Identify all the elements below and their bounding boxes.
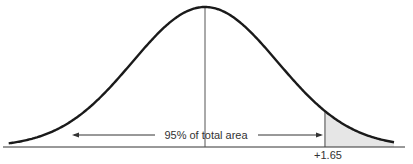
arrow-left-icon bbox=[72, 133, 79, 138]
critical-value-label: +1.65 bbox=[314, 149, 342, 161]
normal-distribution-chart: 95% of total area +1.65 bbox=[0, 0, 413, 164]
upper-tail-shaded-area bbox=[325, 111, 394, 147]
arrow-right-icon bbox=[316, 133, 323, 138]
annotation-label: 95% of total area bbox=[164, 129, 248, 141]
